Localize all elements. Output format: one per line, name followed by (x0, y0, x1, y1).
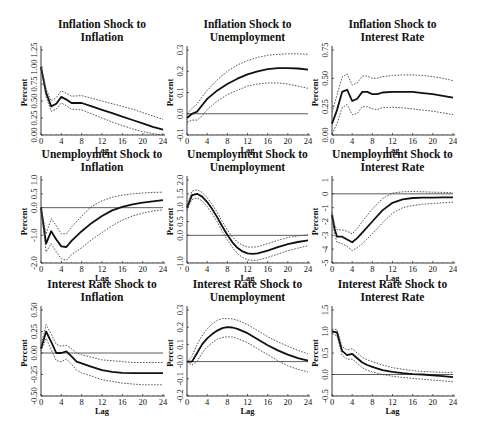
y-tick-label: 0.2 (175, 322, 185, 333)
x-tick-label: 4 (350, 397, 355, 407)
x-tick-label: 24 (304, 264, 313, 274)
impulse-response-line (187, 194, 308, 254)
confidence-band-upper (41, 325, 163, 363)
x-tick-label: 20 (284, 136, 293, 146)
x-tick-label: 8 (80, 264, 84, 274)
y-tick-label: 0.0 (175, 230, 185, 241)
x-tick-label: 4 (59, 397, 64, 407)
confidence-band-lower (332, 104, 453, 133)
y-axis-label: Percent (165, 339, 175, 367)
x-axis-label: Lag (240, 406, 255, 416)
y-tick-label: 1.0 (320, 326, 330, 337)
impulse-response-figure: Inflation Shock toInflation04812162024La… (0, 0, 484, 437)
x-tick-label: 8 (370, 136, 374, 146)
x-tick-label: 8 (225, 136, 229, 146)
x-tick-label: 0 (330, 397, 334, 407)
y-tick-label: -1.0 (29, 229, 39, 242)
chart-title: Interest Rate Shock to (338, 278, 448, 290)
x-tick-label: 20 (284, 264, 293, 274)
y-tick-label: 0.5 (320, 348, 330, 359)
x-tick-label: 20 (429, 264, 438, 274)
y-tick-label: 0 (320, 192, 330, 196)
x-tick-label: 16 (263, 264, 272, 274)
y-tick-label: 0.5 (175, 216, 185, 227)
x-tick-label: 20 (429, 136, 438, 146)
y-tick-label: 1 (320, 178, 330, 182)
x-tick-label: 16 (408, 136, 417, 146)
y-tick-label: 2.0 (175, 175, 185, 186)
y-axis-label: Percent (19, 339, 29, 367)
x-tick-label: 20 (138, 397, 147, 407)
x-tick-label: 16 (118, 397, 127, 407)
y-tick-label: -3 (320, 232, 330, 239)
chart-title: Unemployment (210, 161, 286, 174)
figure-canvas: Inflation Shock toInflation04812162024La… (0, 0, 484, 437)
y-tick-label: 0.25 (29, 324, 39, 339)
y-tick-label: 0.75 (320, 43, 330, 58)
x-tick-label: 0 (39, 264, 43, 274)
y-tick-label: 1.25 (29, 43, 39, 58)
chart-panel: Unemployment Shock toInterest Rate048121… (310, 148, 458, 283)
y-tick-label: 0.5 (29, 189, 39, 200)
x-tick-label: 4 (59, 136, 64, 146)
impulse-response-line (332, 90, 453, 124)
x-tick-label: 8 (80, 397, 84, 407)
confidence-band-upper (332, 329, 453, 372)
x-tick-label: 16 (408, 264, 417, 274)
x-tick-label: 0 (330, 136, 334, 146)
y-tick-label: 0.50 (29, 94, 39, 109)
y-tick-label: 1.5 (175, 189, 185, 200)
chart-panel: Interest Rate Shock toUnemployment048121… (165, 278, 313, 416)
y-tick-label: 0.25 (29, 111, 39, 126)
x-tick-label: 4 (350, 264, 355, 274)
chart-title: Unemployment (210, 31, 286, 44)
x-tick-label: 4 (205, 397, 210, 407)
y-axis-label: Percent (310, 78, 320, 106)
confidence-band-upper (187, 190, 308, 248)
impulse-response-line (332, 197, 453, 242)
impulse-response-line (187, 327, 308, 361)
chart-title: Interest Rate Shock to (193, 278, 303, 290)
impulse-response-line (41, 200, 163, 247)
chart-panel: Interest Rate Shock toInterest Rate04812… (310, 278, 458, 416)
x-tick-label: 24 (449, 136, 458, 146)
x-tick-label: 16 (408, 397, 417, 407)
y-axis-label: Percent (19, 78, 29, 106)
x-tick-label: 4 (350, 136, 355, 146)
x-axis-label: Lag (385, 406, 400, 416)
y-tick-label: 1.0 (29, 175, 39, 186)
y-tick-label: -4 (320, 245, 330, 253)
y-axis-label: Percent (19, 207, 29, 235)
x-tick-label: 16 (263, 136, 272, 146)
x-tick-label: 4 (205, 136, 210, 146)
chart-title: Inflation (81, 291, 124, 303)
y-tick-label: 0.50 (29, 303, 39, 318)
x-tick-label: 8 (80, 136, 84, 146)
chart-panel: Inflation Shock toUnemployment0481216202… (165, 18, 313, 155)
chart-title: Unemployment Shock to (42, 148, 163, 161)
y-tick-label: 0.1 (175, 87, 185, 98)
y-tick-label: 1.5 (320, 305, 330, 316)
chart-panel: Unemployment Shock toUnemployment0481216… (165, 148, 313, 283)
confidence-band-upper (187, 54, 308, 114)
confidence-band-upper (41, 192, 163, 234)
y-tick-label: -0.50 (29, 387, 39, 405)
chart-title: Inflation (81, 161, 124, 173)
y-axis-label: Percent (165, 207, 175, 235)
impulse-response-line (41, 332, 163, 374)
x-tick-label: 0 (185, 264, 189, 274)
chart-panel: Inflation Shock toInterest Rate048121620… (310, 18, 458, 155)
y-tick-label: 0.00 (320, 128, 330, 143)
x-tick-label: 8 (370, 264, 374, 274)
y-tick-label: 0.00 (29, 346, 39, 361)
x-axis-label: Lag (95, 406, 110, 416)
x-tick-label: 24 (304, 136, 313, 146)
y-tick-label: -0.1 (175, 372, 185, 385)
y-tick-label: 0.0 (175, 108, 185, 119)
chart-panel: Unemployment Shock toInflation0481216202… (19, 148, 168, 283)
x-tick-label: 8 (370, 397, 374, 407)
x-tick-label: 20 (429, 397, 438, 407)
x-tick-label: 0 (185, 136, 189, 146)
x-tick-label: 0 (39, 397, 43, 407)
x-tick-label: 0 (330, 264, 334, 274)
